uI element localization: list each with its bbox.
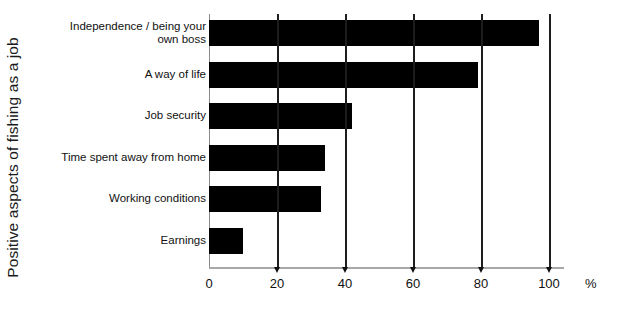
x-axis-tick <box>478 267 484 273</box>
plot-area <box>209 14 558 267</box>
bar <box>209 103 352 129</box>
gridline <box>549 14 551 267</box>
bar <box>209 186 321 212</box>
x-axis-tick-label: 100 <box>529 276 569 291</box>
y-axis-title: Positive aspects of fishing as a job <box>0 0 26 315</box>
x-axis-tick-label: 20 <box>257 276 297 291</box>
category-label: Earnings <box>36 234 206 248</box>
bar <box>209 145 325 171</box>
category-label: Time spent away from home <box>36 151 206 165</box>
bar <box>209 20 539 46</box>
gridline <box>481 14 483 267</box>
x-axis-tick <box>546 267 552 273</box>
category-label: Independence / being your own boss <box>36 20 206 47</box>
category-label: A way of life <box>36 68 206 82</box>
x-axis-tick-label: 60 <box>393 276 433 291</box>
x-axis-line <box>209 267 564 269</box>
x-axis-tick <box>274 267 280 273</box>
category-label: Job security <box>36 109 206 123</box>
x-axis-tick <box>342 267 348 273</box>
gridline <box>277 14 279 267</box>
bar-chart: Positive aspects of fishing as a job Ind… <box>0 0 620 315</box>
x-axis-tick-label: 80 <box>461 276 501 291</box>
category-label-group: Independence / being your own bossA way … <box>36 14 209 267</box>
gridline <box>413 14 415 267</box>
gridline <box>345 14 347 267</box>
x-axis-tick-label: 0 <box>189 276 229 291</box>
x-axis-tick <box>410 267 416 273</box>
bar <box>209 62 478 88</box>
x-axis-tick-label: 40 <box>325 276 365 291</box>
bar <box>209 228 243 254</box>
x-axis-unit-label: % <box>585 276 597 291</box>
category-label: Working conditions <box>36 192 206 206</box>
